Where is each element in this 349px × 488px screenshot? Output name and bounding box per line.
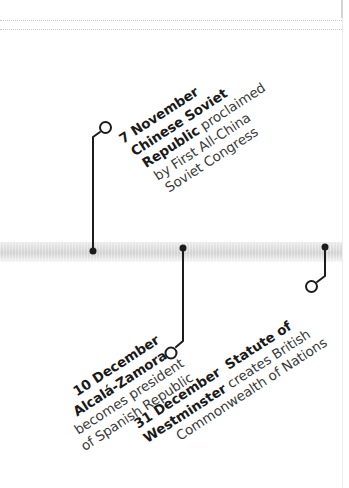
connector-7-november [90, 122, 112, 255]
timeline-page: 7 November Chinese Soviet Republic procl… [0, 0, 349, 488]
connector-31-december [306, 244, 329, 293]
timeline-dot-icon [90, 248, 97, 255]
timeline-dot-icon [180, 245, 187, 252]
timeline-dot-icon [322, 244, 329, 251]
